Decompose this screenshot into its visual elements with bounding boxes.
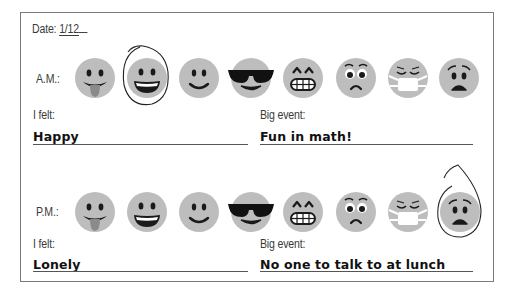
am-face-with-mask-icon[interactable] [388,58,428,98]
pm-frowning-wide-eyes-face-icon[interactable] [336,192,376,232]
am-event-value[interactable]: Fun in math! [260,129,352,144]
am-felt-label: I felt: [33,108,55,122]
pm-emoji-row [75,165,481,237]
pm-worried-sad-face-icon[interactable] [440,192,480,232]
pm-felt-label: I felt: [33,237,55,251]
pm-tongue-out-face-icon[interactable] [75,192,115,232]
pm-grinning-face-icon[interactable] [127,192,167,232]
pm-sunglasses-face-icon[interactable] [228,192,274,232]
pm-felt-underline [33,271,248,272]
pm-event-underline [260,271,473,272]
am-felt-value[interactable]: Happy [33,129,79,144]
am-smiling-face-icon[interactable] [179,58,219,98]
am-grimacing-face-icon[interactable] [283,58,323,98]
pm-event-value[interactable]: No one to talk to at lunch [260,257,445,272]
am-sunglasses-face-icon[interactable] [228,58,274,98]
emoji-rows [0,0,515,300]
pm-felt-value[interactable]: Lonely [33,257,81,272]
am-grinning-face-icon[interactable] [127,58,167,98]
pm-event-label: Big event: [260,237,305,251]
am-tongue-out-face-icon[interactable] [75,58,115,98]
am-event-underline [260,144,473,145]
am-event-label: Big event: [260,108,305,122]
pm-period-label: P.M.: [36,205,58,219]
am-felt-underline [33,144,248,145]
pm-smiling-face-icon[interactable] [179,192,219,232]
am-frowning-wide-eyes-face-icon[interactable] [336,58,376,98]
pm-grimacing-face-icon[interactable] [283,192,323,232]
pm-face-with-mask-icon[interactable] [388,192,428,232]
am-emoji-row [75,46,479,105]
am-worried-sad-face-icon[interactable] [439,58,479,98]
